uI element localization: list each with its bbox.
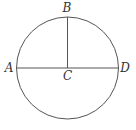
label-point-d: D [119,61,130,75]
circle-diagram: B A D C [0,0,136,130]
label-point-a: A [4,61,14,75]
label-point-c: C [63,69,72,83]
label-point-b: B [62,1,72,15]
